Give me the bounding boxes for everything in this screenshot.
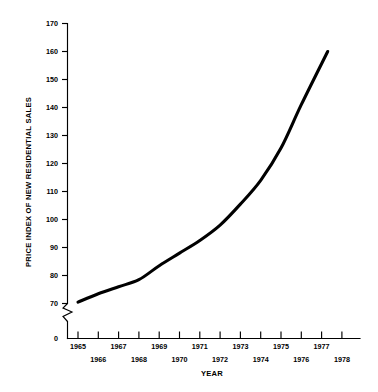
- data-series-group: [78, 52, 328, 303]
- x-tick-label-1973: 1973: [232, 342, 248, 351]
- y-tick-label-160: 160: [46, 47, 58, 56]
- x-tick-label-1975: 1975: [273, 342, 289, 351]
- y-tick-label-90: 90: [50, 243, 58, 252]
- x-tick-label-1974: 1974: [253, 355, 269, 364]
- x-tick-label-1968: 1968: [131, 355, 147, 364]
- y-tick-label-140: 140: [46, 103, 58, 112]
- y-tick-label-130: 130: [46, 131, 58, 140]
- x-tick-label-1971: 1971: [192, 342, 208, 351]
- price-index-curve: [78, 52, 328, 303]
- price-index-line-chart: 170 160 150 140 130 120 110 100 90 80 70…: [0, 0, 378, 392]
- y-tick-label-0: 0: [54, 334, 58, 343]
- y-axis: 170 160 150 140 130 120 110 100 90 80 70…: [24, 19, 72, 343]
- x-axis-title: YEAR: [201, 369, 223, 378]
- y-tick-label-100: 100: [46, 215, 58, 224]
- x-tick-label-1977: 1977: [314, 342, 330, 351]
- x-tick-label-1970: 1970: [172, 355, 188, 364]
- x-axis: 1965 1967 1969 1971 1973 1975 1977 1966 …: [68, 332, 361, 379]
- x-tick-label-1972: 1972: [212, 355, 228, 364]
- chart-container: 170 160 150 140 130 120 110 100 90 80 70…: [0, 0, 378, 392]
- y-tick-label-120: 120: [46, 159, 58, 168]
- y-tick-label-170: 170: [46, 19, 58, 28]
- x-tick-label-1967: 1967: [111, 342, 127, 351]
- y-tick-label-80: 80: [50, 271, 58, 280]
- y-axis-title: PRICE INDEX OF NEW RESIDENTIAL SALES: [24, 97, 33, 267]
- y-tick-label-70: 70: [50, 299, 58, 308]
- x-tick-label-1969: 1969: [151, 342, 167, 351]
- y-tick-label-150: 150: [46, 75, 58, 84]
- x-tick-label-1966: 1966: [90, 355, 106, 364]
- axis-break-zigzag: [63, 304, 72, 322]
- x-tick-label-1965: 1965: [70, 342, 86, 351]
- x-tick-label-1978: 1978: [334, 355, 350, 364]
- x-tick-label-1976: 1976: [293, 355, 309, 364]
- y-tick-label-110: 110: [46, 187, 58, 196]
